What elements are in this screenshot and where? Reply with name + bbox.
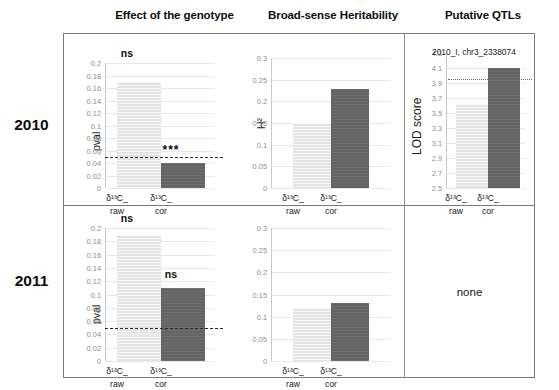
bar-raw[interactable]	[293, 123, 331, 188]
ytick: 3.5	[422, 109, 442, 118]
ytick: 0.06	[75, 317, 101, 326]
ytick: 0.1	[239, 140, 267, 149]
column-header-broad-sense-heritability: Broad-sense Heritability	[258, 9, 408, 21]
axis-baseline	[446, 188, 526, 189]
ytick: 3.7	[422, 94, 442, 103]
ytick: 3.1	[422, 139, 442, 148]
ytick: 0.25	[239, 75, 267, 84]
bar-cor[interactable]	[331, 89, 369, 188]
bar-raw[interactable]	[293, 308, 331, 361]
ytick: 0.16	[75, 250, 101, 259]
xtick-cor-line1: δ¹³C_	[320, 366, 342, 376]
significance-threshold-line	[105, 328, 223, 329]
xtick-cor-line2: cor	[155, 379, 167, 389]
xtick-raw-line1: δ¹³C_	[106, 193, 128, 203]
panel-qtl-2011: none	[404, 206, 535, 378]
xtick-cor-line1: δ¹³C_	[150, 193, 172, 203]
axis-baseline	[271, 361, 391, 362]
significance-label-cor: ***	[139, 143, 203, 157]
row-label-2011: 2011	[0, 272, 63, 290]
plot-area-heritability-2010	[271, 58, 391, 188]
ytick: 0.05	[239, 162, 267, 171]
column-header-effect-of-genotype: Effect of the genotype	[102, 9, 247, 21]
ytick: 0.12	[75, 277, 101, 286]
panel-pval-2010: pval 0.2 0.18 0.16 0.14 0.12 0.1 0.08 0.…	[63, 33, 223, 205]
bar-raw[interactable]	[456, 104, 488, 188]
bar-raw[interactable]	[117, 235, 161, 361]
panel-heritability-2010: H² 0.3 0.25 0.2 0.15 0.1 0.05 0 δ¹³C_ ra…	[223, 33, 404, 205]
ytick: 0.15	[239, 119, 267, 128]
figure-root: Effect of the genotype Broad-sense Herit…	[0, 0, 559, 390]
xtick-raw-line1: δ¹³C_	[106, 366, 128, 376]
bar-raw[interactable]	[117, 82, 161, 188]
qtl-annotation-label: 2010_I, chr3_2338074	[432, 47, 516, 57]
bar-cor[interactable]	[161, 163, 205, 188]
ytick: 0.2	[239, 97, 267, 106]
ytick: 0.1	[75, 121, 101, 130]
xtick-cor: δ¹³C_ cor	[299, 365, 363, 390]
lod-threshold-line	[448, 79, 532, 80]
ytick: 0.04	[75, 159, 101, 168]
panel-qtl-2010: LOD score 4.3 4.1 3.9 3.7 3.5 3.3 3.1 2.…	[404, 33, 535, 205]
ytick: 0.06	[75, 146, 101, 155]
ytick: 0.02	[75, 343, 101, 352]
ytick: 0.08	[75, 303, 101, 312]
significance-label-raw: ns	[95, 47, 159, 59]
bar-cor[interactable]	[331, 303, 369, 361]
xtick-cor: δ¹³C_ cor	[129, 365, 193, 390]
plot-area-pval-2011	[105, 228, 215, 361]
xtick-raw-line2: raw	[286, 379, 300, 389]
ytick: 0.04	[75, 330, 101, 339]
ytick: 0.2	[75, 59, 101, 68]
bar-cor[interactable]	[488, 68, 520, 188]
row-label-2010: 2010	[0, 116, 63, 134]
ytick: 0.3	[239, 224, 267, 233]
ytick: 0.16	[75, 84, 101, 93]
panel-heritability-2011: 0.3 0.25 0.2 0.15 0.1 0.05 0 δ¹³C_ raw δ…	[223, 206, 404, 378]
ytick: 0.02	[75, 171, 101, 180]
column-headers: Effect of the genotype Broad-sense Herit…	[0, 0, 559, 33]
plot-area-heritability-2011	[271, 228, 391, 361]
bar-cor[interactable]	[161, 288, 205, 361]
ytick: 0.05	[239, 334, 267, 343]
ytick: 0.3	[239, 54, 267, 63]
ytick: 2.7	[422, 169, 442, 178]
xtick-cor-line1: δ¹³C_	[477, 193, 499, 203]
ytick: 3.9	[422, 79, 442, 88]
ytick: 0.18	[75, 71, 101, 80]
significance-label-cor: ns	[139, 268, 203, 280]
ytick: 2.9	[422, 154, 442, 163]
ytick: 0.14	[75, 263, 101, 272]
ytick: 0.2	[239, 268, 267, 277]
plot-area-pval-2010	[105, 63, 215, 188]
plot-area-qtl-2010	[446, 53, 526, 188]
ytick: 0.25	[239, 246, 267, 255]
xtick-cor-line2: cor	[325, 379, 337, 389]
qtl-none-text: none	[404, 286, 535, 298]
ytick: 3.3	[422, 124, 442, 133]
ytick: 0.15	[239, 290, 267, 299]
ytick: 0.14	[75, 96, 101, 105]
axis-baseline	[105, 188, 215, 189]
ytick: 0.1	[239, 312, 267, 321]
ytick: 0.1	[75, 290, 101, 299]
ytick: 4.1	[422, 64, 442, 73]
column-header-putative-qtls: Putative QTLs	[418, 9, 548, 21]
panel-pval-2011: pval 0.2 0.18 0.16 0.14 0.12 0.1 0.08 0.…	[63, 206, 223, 378]
significance-label-raw: ns	[95, 212, 159, 224]
ytick: 0.12	[75, 109, 101, 118]
xtick-cor-line1: δ¹³C_	[150, 366, 172, 376]
ytick: 0.2	[75, 224, 101, 233]
axis-baseline	[105, 361, 215, 362]
ytick: 0.08	[75, 134, 101, 143]
axis-baseline	[271, 188, 391, 189]
ytick: 0.18	[75, 237, 101, 246]
xtick-cor-line1: δ¹³C_	[320, 193, 342, 203]
xtick-raw-line2: raw	[110, 379, 124, 389]
